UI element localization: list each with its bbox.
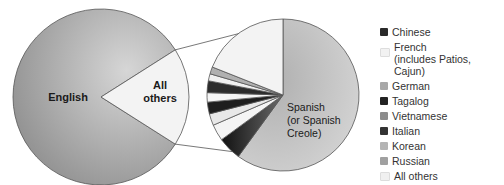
legend-swatch [380, 157, 388, 165]
legend-label: Chinese [392, 26, 431, 38]
legend-label: German [392, 80, 430, 92]
legend-item-korean: Korean [380, 140, 504, 152]
legend-label: Korean [392, 140, 426, 152]
legend-item-vietnamese: Vietnamese [380, 110, 504, 122]
legend-swatch [380, 48, 390, 57]
legend-item-italian: Italian [380, 125, 504, 137]
label-spanish-1: Spanish [287, 101, 325, 113]
legend-swatch [380, 112, 388, 120]
legend-label: French(includes Patios, Cajun) [394, 41, 504, 77]
legend-label: All others [394, 170, 438, 182]
legend-label: Italian [392, 125, 420, 137]
detail-pie [207, 19, 359, 171]
legend: Chinese French(includes Patios, Cajun) G… [380, 26, 504, 185]
legend-item-french: French(includes Patios, Cajun) [380, 41, 504, 77]
legend-item-chinese: Chinese [380, 26, 504, 38]
legend-item-german: German [380, 80, 504, 92]
label-spanish-2: (or Spanish [287, 114, 341, 126]
legend-swatch [380, 172, 390, 181]
legend-label: Vietnamese [392, 110, 447, 122]
label-all-others-1: All [153, 79, 167, 91]
legend-swatch [380, 127, 388, 135]
legend-label-line1: French [394, 41, 427, 53]
legend-label: Tagalog [392, 95, 429, 107]
legend-swatch [380, 142, 388, 150]
legend-swatch [380, 97, 388, 105]
legend-item-russian: Russian [380, 155, 504, 167]
legend-label: Russian [392, 155, 430, 167]
label-all-others-2: others [143, 92, 177, 104]
legend-swatch [380, 28, 388, 36]
legend-item-all-others: All others [380, 170, 504, 182]
legend-swatch [380, 82, 388, 90]
legend-item-tagalog: Tagalog [380, 95, 504, 107]
label-english: English [48, 91, 88, 103]
legend-label-line2: (includes Patios, Cajun) [394, 53, 471, 77]
label-spanish-3: Creole) [287, 127, 321, 139]
